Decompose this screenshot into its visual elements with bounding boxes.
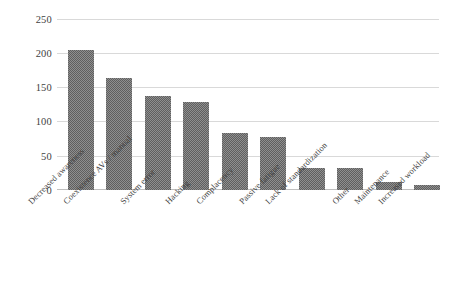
bars-layer [57, 19, 439, 190]
y-axis-tick-50: 50 [8, 151, 52, 162]
y-axis-tick-150: 150 [8, 82, 52, 93]
y-axis-tick-100: 100 [8, 116, 52, 127]
bar-complacency[interactable] [222, 133, 248, 190]
bar-hacking[interactable] [183, 102, 209, 190]
bar-increased-workload[interactable] [414, 185, 440, 190]
plot-area [57, 19, 439, 190]
bar-chart: 250 200 150 100 50 0 Decreased awareness [0, 0, 456, 285]
y-axis-tick-200: 200 [8, 48, 52, 59]
y-axis-tick-250: 250 [8, 14, 52, 25]
